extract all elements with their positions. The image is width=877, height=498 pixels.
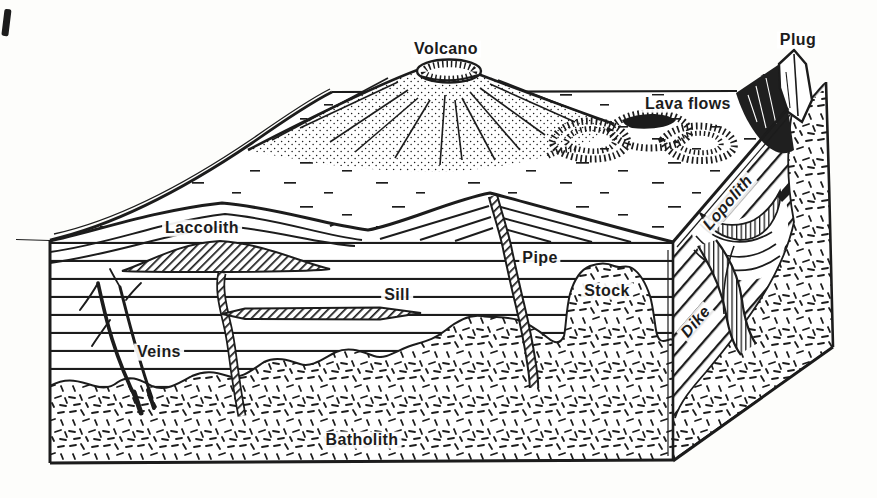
label-pipe: Pipe [519, 250, 560, 267]
label-plug: Plug [777, 32, 819, 49]
volcano-crater [417, 60, 481, 83]
block-diagram-art [0, 0, 877, 498]
label-batholith: Batholith [323, 432, 402, 449]
label-volcano: Volcano [411, 41, 481, 58]
label-sill: Sill [381, 287, 413, 304]
sill-body [222, 308, 421, 320]
label-laccolith: Laccolith [162, 220, 242, 237]
label-lava-flows: Lava flows [642, 96, 734, 113]
geology-block-diagram: Volcano Plug Lava flows Laccolith Lopoli… [0, 0, 877, 498]
front-face [50, 190, 675, 465]
label-veins: Veins [134, 344, 184, 361]
label-stock: Stock [581, 283, 633, 300]
